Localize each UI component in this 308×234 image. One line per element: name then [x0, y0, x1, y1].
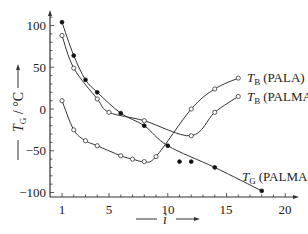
data-point-marker [72, 128, 76, 132]
xtick-20: 20 [279, 202, 292, 217]
series-line [62, 22, 262, 191]
data-point-marker [189, 107, 193, 111]
data-point-marker [130, 157, 134, 161]
data-point-marker [189, 134, 193, 138]
data-point-marker [119, 111, 123, 115]
series-labels: TB(PALA) TB(PALMA) TG(PALMA) [242, 70, 308, 186]
x-axis-label: i [163, 212, 167, 227]
data-point-marker [83, 139, 87, 143]
data-point-marker [119, 154, 123, 158]
ytick-0: 0 [40, 102, 47, 117]
label-tb-palma: TB(PALMA) [247, 89, 308, 106]
data-point-marker [178, 160, 182, 164]
series-line [62, 78, 238, 162]
data-series [60, 20, 264, 192]
data-point-marker [60, 33, 64, 37]
series-line [62, 36, 238, 136]
data-point-marker [236, 94, 240, 98]
data-point-marker [142, 124, 146, 128]
svg-text:TG / °C: TG / °C [11, 92, 28, 132]
series-t-b-pala- [60, 76, 240, 164]
xtick-5: 5 [106, 202, 113, 217]
data-point-marker [142, 160, 146, 164]
x-tick-labels: 1 5 10 15 20 [59, 202, 292, 217]
ytick-m50: −50 [26, 143, 46, 158]
data-point-marker [213, 166, 217, 170]
data-point-marker [166, 144, 170, 148]
data-point-marker [95, 97, 99, 101]
label-tb-pala: TB(PALA) [247, 70, 305, 87]
data-point-marker [72, 66, 76, 70]
data-point-marker [213, 87, 217, 91]
series-isolated [178, 160, 194, 164]
ytick-100: 100 [27, 18, 47, 33]
data-point-marker [60, 99, 64, 103]
data-point-marker [213, 110, 217, 114]
data-point-marker [95, 144, 99, 148]
data-point-marker [142, 119, 146, 123]
chart: 100 50 0 −50 −100 1 5 10 15 20 i TG / °C… [0, 0, 308, 234]
xtick-1: 1 [59, 202, 66, 217]
data-point-marker [260, 189, 264, 193]
data-point-marker [84, 78, 88, 82]
data-point-marker [95, 90, 99, 94]
data-point-marker [236, 76, 240, 80]
data-point-marker [107, 110, 111, 114]
data-point-marker [72, 54, 76, 58]
xtick-15: 15 [220, 202, 233, 217]
y-axis [48, 10, 52, 197]
data-point-marker [189, 160, 193, 164]
series-t-g-palma- [60, 33, 240, 137]
label-tg-palma: TG(PALMA) [242, 169, 308, 186]
ytick-m100: −100 [19, 185, 46, 200]
ytick-50: 50 [33, 60, 46, 75]
y-axis-label-rest: / °C [11, 92, 26, 118]
data-point-marker [60, 20, 64, 24]
series-t-g-pala- [60, 20, 264, 192]
data-point-marker [154, 154, 158, 158]
